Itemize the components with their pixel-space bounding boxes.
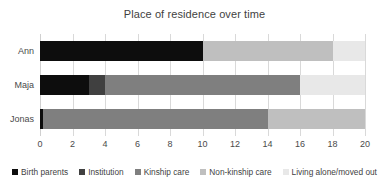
bar-segment[interactable] [43, 109, 267, 129]
bar-series-group [40, 34, 365, 136]
legend-label: Non-kinship care [209, 168, 271, 176]
legend-swatch-icon [283, 169, 289, 175]
legend-swatch-icon [12, 169, 18, 175]
x-tick-label: 10 [197, 139, 207, 149]
x-tick-label: 0 [37, 139, 42, 149]
bar-segment[interactable] [105, 75, 300, 95]
x-tick-label: 2 [70, 139, 75, 149]
legend-label: Birth parents [21, 168, 68, 176]
x-tick-label: 12 [230, 139, 240, 149]
legend-swatch-icon [135, 169, 141, 175]
legend-item[interactable]: Non-kinship care [200, 168, 271, 176]
bar-segment[interactable] [333, 41, 366, 61]
chart-container: Place of residence over time AnnMajaJona… [0, 0, 389, 189]
chart-legend: Birth parentsInstitutionKinship careNon-… [0, 168, 389, 176]
bar-row [40, 109, 365, 129]
bar-segment[interactable] [89, 75, 105, 95]
bar-segment[interactable] [40, 41, 203, 61]
bar-segment[interactable] [300, 75, 365, 95]
y-axis-label-ann: Ann [18, 46, 34, 56]
legend-item[interactable]: Living alone/moved out [283, 168, 377, 176]
bar-track [40, 41, 365, 61]
bar-segment[interactable] [268, 109, 366, 129]
x-tick-label: 20 [360, 139, 370, 149]
legend-label: Living alone/moved out [292, 168, 377, 176]
y-axis-category-labels: AnnMajaJonas [0, 34, 36, 136]
plot-area [40, 34, 365, 136]
bar-row [40, 41, 365, 61]
x-axis-tick-labels: 02468101214161820 [40, 139, 365, 153]
legend-item[interactable]: Institution [79, 168, 124, 176]
x-tick-label: 16 [295, 139, 305, 149]
y-axis-label-jonas: Jonas [10, 114, 34, 124]
bar-row [40, 75, 365, 95]
chart-title: Place of residence over time [0, 8, 389, 20]
bar-segment[interactable] [203, 41, 333, 61]
legend-swatch-icon [79, 169, 85, 175]
legend-item[interactable]: Birth parents [12, 168, 68, 176]
gridline [365, 34, 366, 136]
x-tick-label: 4 [102, 139, 107, 149]
x-tick-label: 6 [135, 139, 140, 149]
legend-item[interactable]: Kinship care [135, 168, 190, 176]
x-tick-label: 8 [167, 139, 172, 149]
x-tick-label: 14 [262, 139, 272, 149]
y-axis-label-maja: Maja [14, 80, 34, 90]
bar-segment[interactable] [40, 75, 89, 95]
legend-label: Kinship care [144, 168, 190, 176]
legend-swatch-icon [200, 169, 206, 175]
bar-track [40, 75, 365, 95]
x-tick-label: 18 [327, 139, 337, 149]
legend-label: Institution [88, 168, 124, 176]
bar-track [40, 109, 365, 129]
